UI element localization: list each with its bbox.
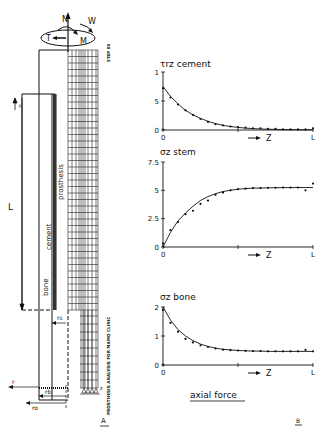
fem-data-point bbox=[304, 349, 306, 351]
svg-text:Z: Z bbox=[266, 134, 272, 143]
svg-text:Z: Z bbox=[266, 369, 272, 378]
svg-text:Z: Z bbox=[266, 251, 272, 260]
fem-data-point bbox=[259, 187, 261, 189]
fem-data-point bbox=[244, 127, 246, 129]
fem-data-point bbox=[214, 123, 216, 125]
fem-data-point bbox=[304, 189, 306, 191]
svg-text:0: 0 bbox=[161, 369, 165, 377]
chart-title: σz bone bbox=[160, 292, 196, 302]
shear-force-arrow-icon bbox=[52, 36, 57, 40]
fem-data-point bbox=[289, 350, 291, 352]
fem-data-point bbox=[169, 96, 171, 98]
chart-title: σz stem bbox=[160, 147, 196, 157]
fem-data-point bbox=[199, 203, 201, 205]
bone-label: bone bbox=[42, 279, 50, 296]
chart-2: 02.557.5σz stem0LZ bbox=[148, 147, 315, 260]
fem-data-point bbox=[252, 187, 254, 189]
fem-data-point bbox=[289, 187, 291, 189]
fem-data-point bbox=[289, 128, 291, 130]
load-n-label: N bbox=[62, 15, 68, 24]
fem-data-point bbox=[229, 189, 231, 191]
fem-data-point bbox=[267, 128, 269, 130]
fem-data-point bbox=[252, 127, 254, 129]
radius-dimensions bbox=[10, 323, 66, 408]
fem-data-point bbox=[207, 346, 209, 348]
y-tick-label: 7.5 bbox=[148, 159, 159, 167]
load-m-label: M bbox=[80, 37, 87, 46]
fem-data-point bbox=[192, 341, 194, 343]
fem-data-point bbox=[297, 128, 299, 130]
panel-b-label: B bbox=[296, 417, 300, 424]
fem-data-point bbox=[214, 347, 216, 349]
figure: N T M W h bbox=[0, 0, 333, 440]
load-t-label: T bbox=[45, 34, 51, 43]
svg-text:L: L bbox=[311, 251, 315, 259]
fem-data-point bbox=[312, 127, 314, 129]
z-arrow-icon bbox=[256, 371, 261, 375]
fem-data-point bbox=[192, 114, 194, 116]
fem-data-point bbox=[237, 126, 239, 128]
fem-data-point bbox=[184, 213, 186, 215]
svg-text:0: 0 bbox=[161, 251, 165, 259]
fem-data-point bbox=[259, 350, 261, 352]
fem-data-point bbox=[237, 349, 239, 351]
y-tick-label: 1 bbox=[155, 333, 159, 341]
panel-a-fem-model: N T M W h bbox=[8, 12, 111, 426]
fem-data-point bbox=[229, 349, 231, 351]
svg-text:L: L bbox=[311, 369, 315, 377]
fem-data-point bbox=[312, 350, 314, 352]
cement-layer bbox=[53, 94, 56, 310]
fem-data-point bbox=[252, 350, 254, 352]
fem-data-point bbox=[184, 109, 186, 111]
y-tick-label: 1 bbox=[155, 69, 159, 77]
r-axis-label: r bbox=[12, 378, 15, 385]
fem-data-point bbox=[169, 322, 171, 324]
y-tick-label: 2.5 bbox=[148, 215, 159, 223]
top-caption: STEP 00 bbox=[106, 44, 111, 62]
rs-label: rs bbox=[57, 314, 63, 321]
fem-data-point bbox=[192, 210, 194, 212]
fem-data-point bbox=[184, 338, 186, 340]
fem-data-point bbox=[304, 128, 306, 130]
analytical-curve bbox=[163, 87, 313, 130]
fem-data-point bbox=[222, 124, 224, 126]
analytical-curve bbox=[163, 307, 313, 351]
fem-data-point bbox=[177, 331, 179, 333]
fem-data-point bbox=[297, 186, 299, 188]
cement-label: cement bbox=[45, 223, 53, 250]
svg-text:L: L bbox=[311, 134, 315, 142]
fem-data-point bbox=[207, 121, 209, 123]
side-caption: PROSTHESIS ANALYSIS FOR MAMO CLINIC bbox=[106, 317, 111, 415]
load-diagram: N T M W bbox=[41, 12, 96, 52]
fem-data-point bbox=[169, 229, 171, 231]
fem-data-point bbox=[244, 188, 246, 190]
fem-data-point bbox=[222, 349, 224, 351]
fem-data-point bbox=[237, 188, 239, 190]
analytical-curve bbox=[163, 188, 313, 248]
fem-mesh bbox=[68, 50, 98, 388]
fem-data-point bbox=[267, 187, 269, 189]
fem-data-point bbox=[177, 103, 179, 105]
fem-data-point bbox=[162, 309, 164, 311]
torsion-arrow-icon bbox=[88, 28, 93, 33]
y-tick-label: 2 bbox=[155, 304, 159, 312]
fem-data-point bbox=[274, 350, 276, 352]
mesh-supports bbox=[80, 388, 100, 394]
fem-data-point bbox=[199, 344, 201, 346]
y-tick-label: 5 bbox=[155, 98, 159, 106]
fem-data-point bbox=[267, 350, 269, 352]
fem-data-point bbox=[162, 243, 164, 245]
fem-data-point bbox=[312, 182, 314, 184]
y-tick-label: 0 bbox=[155, 127, 159, 135]
panel-a-label: A bbox=[101, 417, 106, 425]
fem-data-point bbox=[162, 87, 164, 89]
fem-data-point bbox=[259, 127, 261, 129]
offset-label: h bbox=[19, 103, 22, 109]
length-dimension bbox=[13, 98, 24, 310]
fem-data-point bbox=[177, 221, 179, 223]
y-tick-label: 5 bbox=[155, 187, 159, 195]
fem-data-point bbox=[207, 199, 209, 201]
fem-data-point bbox=[199, 118, 201, 120]
panel-b-charts: 051τrz cement0LZ02.557.5σz stem0LZ012σz … bbox=[148, 59, 315, 378]
z-arrow-icon bbox=[256, 253, 261, 257]
